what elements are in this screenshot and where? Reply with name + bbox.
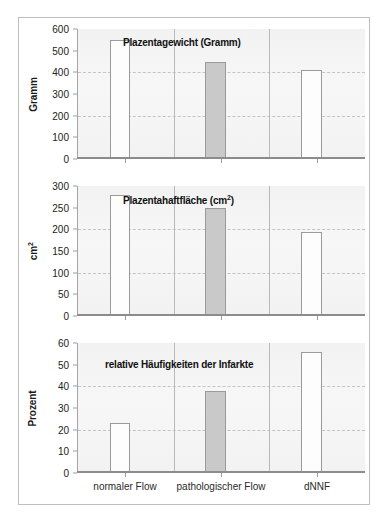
- category-separator: [269, 29, 270, 159]
- x-tick-mark: [317, 473, 318, 477]
- y-tick-label: 300: [52, 89, 69, 100]
- y-tick-label: 150: [52, 246, 69, 257]
- category-separator: [269, 343, 270, 473]
- y-axis-ticklabels-1: 050100150200250300: [39, 186, 73, 316]
- x-axis-label-2: dNNF: [304, 481, 330, 492]
- bar-1: [205, 391, 226, 473]
- chart-panel-1: cm2050100150200250300Plazentahaftfläche …: [19, 186, 369, 338]
- bar-2: [301, 70, 322, 159]
- x-tick-mark: [221, 473, 222, 477]
- figure-frame: Gramm0100200300400500600Plazentagewicht …: [18, 17, 370, 505]
- x-tick-mark: [221, 159, 222, 163]
- bar-0: [110, 423, 131, 473]
- plot-area-0: [77, 29, 365, 159]
- x-tick-mark: [125, 159, 126, 163]
- x-axis-1: [77, 316, 365, 338]
- y-tick-label: 60: [58, 338, 69, 349]
- bar-2: [301, 232, 322, 317]
- bar-0: [110, 40, 131, 159]
- bar-2: [301, 352, 322, 473]
- x-tick-mark: [125, 316, 126, 320]
- gridline: [78, 386, 365, 387]
- y-tick-label: 400: [52, 67, 69, 78]
- chart-panel-2: Prozent0102030405060relative Häufigkeite…: [19, 343, 369, 495]
- y-tick-label: 0: [63, 311, 69, 322]
- chart-panel-container: Gramm0100200300400500600Plazentagewicht …: [19, 18, 369, 504]
- chart-title-1: Plazentahaftfläche (cm2): [123, 194, 234, 206]
- category-separator: [174, 29, 175, 159]
- y-tick-label: 200: [52, 224, 69, 235]
- chart-panel-0: Gramm0100200300400500600Plazentagewicht …: [19, 29, 369, 181]
- y-tick-label: 0: [63, 154, 69, 165]
- y-tick-label: 100: [52, 267, 69, 278]
- bar-1: [205, 62, 226, 160]
- y-tick-label: 100: [52, 132, 69, 143]
- y-axis-ticklabels-0: 0100200300400500600: [39, 29, 73, 159]
- y-tick-label: 50: [58, 289, 69, 300]
- x-tick-mark: [221, 316, 222, 320]
- x-tick-mark: [317, 159, 318, 163]
- x-tick-mark: [317, 316, 318, 320]
- y-tick-label: 0: [63, 468, 69, 479]
- chart-title-0: Plazentagewicht (Gramm): [123, 37, 241, 48]
- bar-1: [205, 208, 226, 316]
- x-axis-label-0: normaler Flow: [93, 481, 156, 492]
- y-axis-ticklabels-2: 0102030405060: [39, 343, 73, 473]
- y-tick-label: 40: [58, 381, 69, 392]
- chart-title-2: relative Häufigkeiten der Infarkte: [105, 359, 253, 370]
- x-axis-2: normaler Flowpathologischer FlowdNNF: [77, 473, 365, 495]
- y-tick-label: 10: [58, 446, 69, 457]
- y-tick-label: 500: [52, 45, 69, 56]
- y-tick-label: 20: [58, 424, 69, 435]
- x-axis-label-1: pathologischer Flow: [177, 481, 266, 492]
- y-tick-label: 30: [58, 403, 69, 414]
- category-separator: [269, 186, 270, 316]
- y-tick-label: 300: [52, 181, 69, 192]
- y-tick-label: 600: [52, 24, 69, 35]
- x-axis-0: [77, 159, 365, 181]
- x-tick-mark: [125, 473, 126, 477]
- y-tick-label: 250: [52, 202, 69, 213]
- bar-0: [110, 195, 131, 316]
- y-tick-label: 50: [58, 359, 69, 370]
- y-tick-label: 200: [52, 110, 69, 121]
